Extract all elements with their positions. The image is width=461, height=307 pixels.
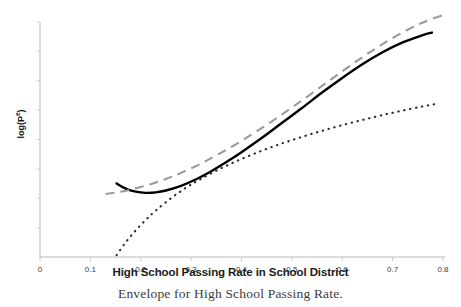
x-axis-title: High School Passing Rate in School Distr…: [0, 266, 461, 278]
y-axis-title: log(Pe): [14, 92, 26, 156]
axis-group: [40, 22, 445, 257]
y-axis-title-close: ): [16, 109, 26, 112]
series-group: [105, 15, 443, 255]
y-axis-title-superscript: e: [14, 112, 21, 116]
figure-caption: Envelope for High School Passing Rate.: [0, 286, 461, 302]
y-axis-title-base: log(P: [16, 116, 26, 139]
series-upper-envelope: [105, 15, 443, 194]
chart-canvas: 00.10.20.30.40.50.60.70.8: [0, 0, 461, 278]
tick-mark-group: [37, 22, 443, 261]
series-fitted-curve: [117, 33, 432, 193]
figure-panel: 00.10.20.30.40.50.60.70.8 log(Pe) High S…: [0, 0, 461, 307]
